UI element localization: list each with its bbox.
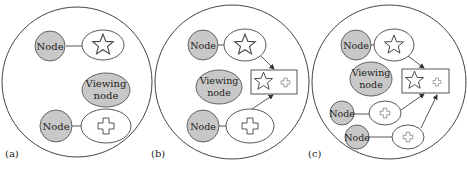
- container-circle: [2, 7, 152, 157]
- panel-label: (c): [308, 148, 322, 159]
- node-label: Node: [344, 132, 370, 143]
- node-label: Node: [190, 40, 216, 51]
- viewing-label-1: Viewing: [351, 67, 391, 78]
- cross-sub-ellipse: [369, 101, 401, 125]
- viewing-label-2: node: [359, 79, 383, 90]
- panel-label: (b): [151, 148, 165, 159]
- viewing-label-1: Viewing: [85, 78, 127, 89]
- panel-b: Node Viewing node Node (b): [151, 5, 309, 159]
- viewing-label-2: node: [94, 90, 119, 101]
- diagram: Node Viewing node Node (a) Node Viewing …: [0, 0, 467, 169]
- cross-sub-ellipse: [392, 125, 424, 149]
- panel-a: Node Viewing node Node (a): [2, 7, 152, 159]
- node-label: Node: [42, 121, 69, 132]
- viewing-label-2: node: [207, 87, 231, 98]
- cross-sub-ellipse: [226, 109, 274, 143]
- node-label: Node: [36, 41, 63, 52]
- viewing-label-1: Viewing: [199, 75, 239, 86]
- node-label: Node: [329, 108, 355, 119]
- node-label: Node: [343, 40, 369, 51]
- cross-sub-ellipse: [81, 109, 131, 143]
- panel-label: (a): [5, 148, 19, 159]
- panel-c: Node Viewing node Node Node (c): [308, 5, 466, 159]
- node-label: Node: [190, 121, 216, 132]
